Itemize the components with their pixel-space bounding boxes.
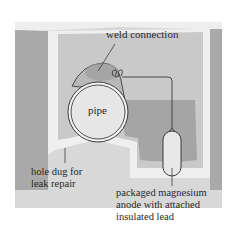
hole-label-line2: leak repair	[31, 178, 76, 190]
pipe-label: pipe	[88, 104, 107, 116]
anode-label-line3: insulated lead	[116, 211, 174, 223]
hole-label-line1: hole dug for	[31, 166, 82, 178]
anode-label-line1: packaged magnesium	[116, 187, 207, 199]
pipe-top-band	[85, 63, 119, 81]
soil-dark-right	[210, 29, 222, 190]
anode-label-line2: anode with attached	[116, 199, 200, 211]
weld-connection-label: weld connection	[106, 28, 178, 40]
